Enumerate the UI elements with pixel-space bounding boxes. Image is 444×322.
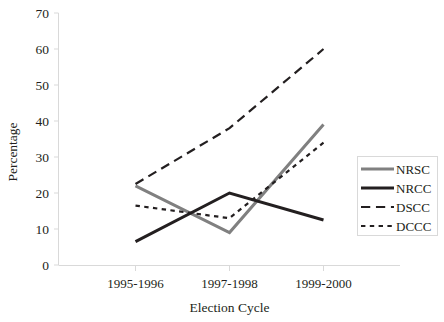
x-tick-label-2: 1997-1998 [201, 276, 257, 291]
y-axis-title: Percentage [5, 122, 20, 181]
line-chart: 70 60 50 40 30 20 10 0 Percentage 1995-1… [0, 0, 444, 322]
x-axis-ticks [136, 266, 324, 272]
series-line-nrsc [136, 125, 324, 233]
chart-legend: NRSC NRCC DSCC DCCC [358, 157, 438, 236]
y-tick-label-30: 30 [36, 150, 50, 165]
legend-label-dscc: DSCC [396, 200, 430, 215]
y-tick-label-70: 70 [36, 6, 50, 21]
series-line-dscc [136, 49, 324, 184]
series-line-dccc [136, 143, 324, 219]
legend-label-dccc: DCCC [396, 219, 431, 234]
series-lines [136, 49, 324, 242]
legend-label-nrsc: NRSC [396, 162, 430, 177]
y-tick-label-10: 10 [36, 222, 50, 237]
chart-container: 70 60 50 40 30 20 10 0 Percentage 1995-1… [0, 0, 444, 322]
y-tick-label-60: 60 [36, 42, 50, 57]
x-tick-label-1: 1995-1996 [107, 276, 164, 291]
y-tick-label-0: 0 [42, 258, 49, 273]
x-axis-title: Election Cycle [190, 300, 270, 315]
x-tick-label-3: 1999-2000 [295, 276, 351, 291]
y-tick-label-50: 50 [36, 78, 50, 93]
y-tick-label-40: 40 [36, 114, 50, 129]
y-tick-label-20: 20 [36, 186, 50, 201]
y-axis-ticks [54, 13, 59, 265]
legend-label-nrcc: NRCC [396, 181, 431, 196]
